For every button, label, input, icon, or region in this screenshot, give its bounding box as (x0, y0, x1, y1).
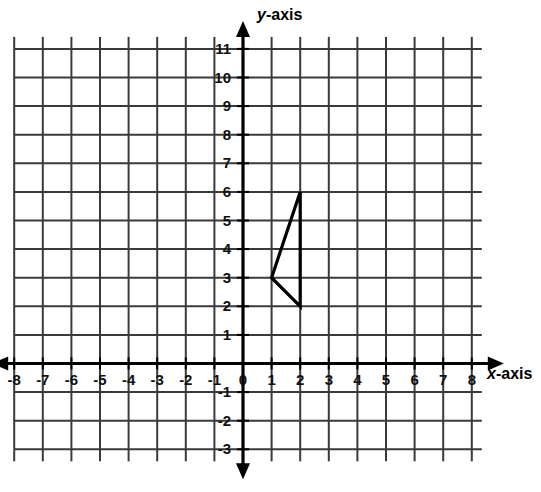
x-tick-label: 2 (296, 371, 304, 388)
y-tick-label: 11 (215, 40, 231, 57)
y-tick-label: 7 (223, 154, 231, 171)
y-tick-label: -3 (218, 440, 231, 457)
y-tick-label: 6 (223, 183, 231, 200)
x-tick-label: -4 (122, 371, 136, 388)
x-tick-label: 8 (468, 371, 476, 388)
y-tick-label: 1 (223, 326, 231, 343)
y-axis-arrow-down (236, 463, 250, 479)
y-tick-label: -1 (218, 383, 231, 400)
coordinate-plane-figure: -8-7-6-5-4-3-2-1012345678-3-2-1123456789… (0, 0, 541, 492)
y-axis-arrow-up (236, 21, 250, 37)
x-tick-label: -5 (93, 371, 106, 388)
x-tick-label: 4 (353, 371, 362, 388)
y-tick-label: 10 (214, 69, 231, 86)
y-tick-label: 5 (223, 212, 231, 229)
x-tick-label: -2 (179, 371, 192, 388)
y-tick-label: 4 (223, 240, 232, 257)
x-tick-label: -3 (151, 371, 164, 388)
y-tick-label: 9 (223, 97, 231, 114)
x-tick-label: 6 (410, 371, 418, 388)
x-tick-label: 3 (325, 371, 333, 388)
coordinate-grid-svg: -8-7-6-5-4-3-2-1012345678-3-2-1123456789… (0, 0, 541, 492)
x-axis-arrow-left (0, 357, 8, 371)
x-tick-label: 0 (239, 371, 247, 388)
x-axis-label: x-axis (486, 365, 532, 382)
y-axis-label: y-axis (256, 6, 302, 23)
x-tick-label: -8 (8, 371, 21, 388)
y-tick-label: 8 (223, 126, 231, 143)
x-tick-label: 1 (267, 371, 275, 388)
y-tick-label: -2 (218, 412, 231, 429)
y-tick-label: 3 (223, 269, 231, 286)
x-tick-label: -6 (65, 371, 78, 388)
x-tick-label: 7 (439, 371, 447, 388)
x-tick-label: -7 (36, 371, 49, 388)
y-tick-label: 2 (223, 297, 231, 314)
x-tick-label: 5 (382, 371, 390, 388)
